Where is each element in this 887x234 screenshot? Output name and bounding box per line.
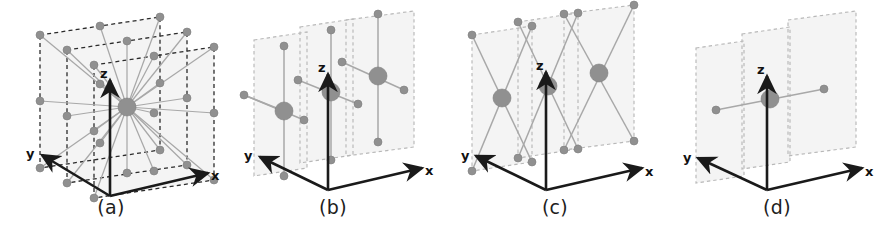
panel-a-caption: (a) — [0, 196, 222, 218]
x-axis — [546, 168, 642, 190]
hub-node — [761, 90, 779, 108]
z-axis-label: z — [536, 58, 544, 73]
hub-node — [118, 98, 136, 116]
x-axis-label: x — [211, 168, 220, 183]
x-axis-label: x — [425, 163, 434, 178]
panel-d-caption: (d) — [666, 196, 887, 218]
panel-c-caption: (c) — [444, 196, 666, 218]
x-axis-label: x — [865, 164, 874, 179]
panel-d: z x y (d) — [666, 0, 887, 234]
z-axis-label: z — [100, 66, 108, 81]
z-axis-label: z — [318, 60, 326, 75]
y-axis-label: y — [244, 148, 253, 163]
x-axis-label: x — [645, 164, 654, 179]
panel-b: z x y (b) — [222, 0, 444, 234]
panel-c: z x y (c) — [444, 0, 666, 234]
x-axis — [767, 168, 862, 190]
y-axis-label: y — [26, 146, 35, 161]
y-axis-label: y — [683, 150, 692, 165]
y-axis-label: y — [461, 148, 470, 163]
z-axis-label: z — [757, 62, 765, 77]
panel-b-caption: (b) — [222, 196, 444, 218]
figure-root: z x y (a) — [0, 0, 887, 234]
x-axis — [328, 168, 422, 190]
panel-a: z x y (a) — [0, 0, 222, 234]
